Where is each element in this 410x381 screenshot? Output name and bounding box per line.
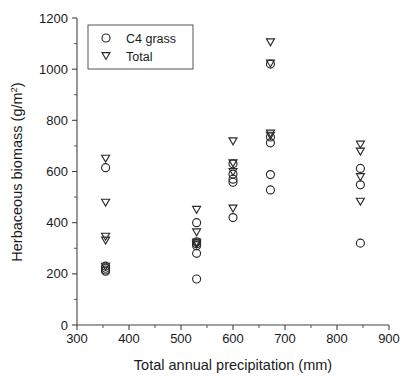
data-point (193, 219, 201, 227)
y-tick-label: 800 (46, 113, 68, 128)
data-point (266, 171, 274, 179)
y-tick-label: 400 (46, 215, 68, 230)
x-tick-label: 800 (326, 331, 348, 346)
data-point (193, 206, 201, 213)
data-point (193, 249, 201, 257)
data-point (266, 39, 274, 46)
series-total (102, 39, 365, 270)
y-tick-label: 200 (46, 266, 68, 281)
data-points-group (102, 39, 365, 283)
plot-svg: 0200400600800100012003004005006007008009… (0, 0, 410, 381)
data-point (266, 186, 274, 194)
data-point (356, 174, 364, 181)
data-point (356, 239, 364, 247)
data-point (193, 275, 201, 283)
data-point (229, 138, 237, 145)
legend-group: C4 grassTotal (88, 25, 193, 69)
y-axis-title-base: Herbaceous biomass (g/m (9, 92, 25, 261)
data-point (229, 214, 237, 222)
data-point (229, 160, 237, 167)
data-point (356, 141, 364, 148)
y-tick-label: 600 (46, 164, 68, 179)
y-tick-label: 1200 (39, 11, 68, 26)
series-c4-grass (102, 60, 365, 283)
x-tick-label: 700 (274, 331, 296, 346)
y-tick-label: 1000 (39, 62, 68, 77)
x-tick-label: 900 (378, 331, 400, 346)
x-tick-label: 300 (66, 331, 88, 346)
x-tick-label: 500 (170, 331, 192, 346)
y-axis-title-group: Herbaceous biomass (g/m2) (8, 82, 25, 261)
y-axis-title-tail: ) (9, 82, 25, 87)
y-axis-title: Herbaceous biomass (g/m2) (8, 82, 25, 261)
legend-label: C4 grass (126, 32, 176, 46)
x-tick-label: 400 (118, 331, 140, 346)
data-point (356, 181, 364, 189)
scatter-chart: 0200400600800100012003004005006007008009… (0, 0, 410, 381)
data-point (356, 198, 364, 205)
x-axis-title: Total annual precipitation (mm) (134, 357, 332, 373)
data-point (102, 164, 110, 172)
data-point (193, 229, 201, 236)
x-tick-label: 600 (222, 331, 244, 346)
legend-label: Total (126, 50, 152, 64)
data-point (229, 205, 237, 212)
data-point (266, 60, 274, 67)
data-point (356, 164, 364, 172)
data-point (102, 199, 110, 206)
data-point (102, 155, 110, 162)
